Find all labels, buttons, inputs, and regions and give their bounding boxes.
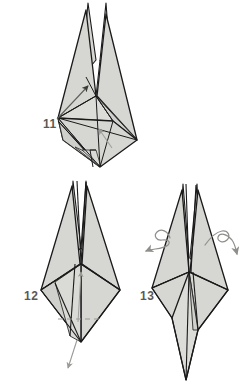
step-label-12: 12 <box>24 290 38 302</box>
origami-diagram-sheet <box>0 0 247 386</box>
step-11-figure <box>57 3 137 167</box>
step-13-figure <box>146 184 237 380</box>
step-12-figure <box>41 181 120 368</box>
step-label-13: 13 <box>140 290 154 302</box>
step-12-arrow-down <box>68 340 77 368</box>
step-label-11: 11 <box>43 118 57 130</box>
